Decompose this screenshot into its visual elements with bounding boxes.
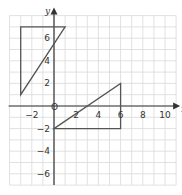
y-tick-label: −4 <box>37 146 51 156</box>
grid-lines <box>10 16 177 186</box>
coordinate-plane: xyO−2246810642−2−4−6 <box>0 0 182 195</box>
y-axis-arrow-icon <box>51 8 58 15</box>
tick-labels: xyO−2246810642−2−4−6 <box>25 6 182 179</box>
x-tick-label: −2 <box>25 110 38 120</box>
y-tick-label: −6 <box>37 169 51 179</box>
x-tick-label: 4 <box>96 110 102 120</box>
y-axis-label: y <box>44 6 51 16</box>
axes <box>9 8 181 186</box>
x-tick-label: 8 <box>140 110 146 120</box>
x-tick-label: 6 <box>118 110 124 120</box>
x-tick-label: 10 <box>159 110 171 120</box>
y-tick-label: 6 <box>44 33 50 43</box>
y-tick-label: 2 <box>44 78 50 88</box>
x-axis-label: x <box>181 104 182 114</box>
y-tick-label: −2 <box>37 124 50 134</box>
x-axis-arrow-icon <box>173 103 180 110</box>
x-tick-label: 2 <box>73 110 79 120</box>
origin-label: O <box>51 102 58 112</box>
y-tick-label: 4 <box>44 56 50 66</box>
